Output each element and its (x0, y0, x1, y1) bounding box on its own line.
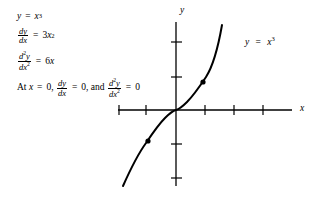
curve-annotation: y = x3 (245, 36, 275, 48)
y-axis-label: y (180, 6, 184, 16)
curve-point-marker (145, 138, 150, 143)
curve-point-marker (200, 79, 205, 84)
cubic-plot: y x y = x3 (0, 0, 319, 209)
derivative-figure: y = x3 dy dx = 3x2 d2y dx2 = 6x At x = (0, 0, 319, 209)
x-axis-label: x (300, 104, 304, 114)
symbol-y: y (245, 37, 249, 47)
symbol-equals: = (256, 37, 261, 47)
exponent-3: 3 (272, 35, 275, 42)
plot-svg (0, 0, 319, 209)
cubic-curve (123, 25, 222, 186)
